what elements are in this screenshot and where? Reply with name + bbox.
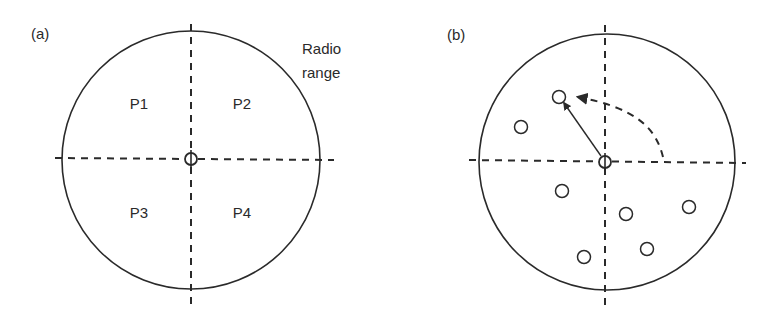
radio-range-label: Radio range [302,37,341,85]
neighbor-node [578,251,591,264]
quadrant-label-p1: P1 [130,95,148,112]
neighbor-node [620,208,633,221]
neighbor-node [641,243,654,256]
neighbor-node [556,185,569,198]
panel-a [55,24,334,306]
quadrant-label-p3: P3 [130,204,148,221]
radio-range-label-line2: range [302,61,341,85]
neighbor-node [515,121,528,134]
figure-canvas [0,0,776,320]
quadrant-label-p4: P4 [233,204,251,221]
rotation-arrow [578,97,663,157]
neighbor-node [683,201,696,214]
panel-b [469,25,746,308]
panel-a-tag: (a) [31,25,49,42]
neighbor-node-selected [553,91,566,104]
panel-b-tag: (b) [447,26,465,43]
quadrant-label-p2: P2 [233,95,251,112]
radio-range-label-line1: Radio [302,37,341,61]
selection-arrow [564,103,601,156]
